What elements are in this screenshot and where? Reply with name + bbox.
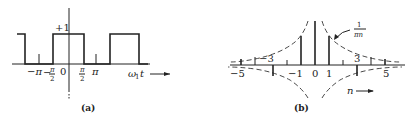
label-minus-half-pi-num: π (49, 66, 55, 74)
label-half-pi-den: 2 (80, 75, 84, 83)
label-n-minus1: −1 (288, 68, 303, 79)
envelope-label-num: 1 (357, 21, 361, 29)
envelope-lower-right (322, 67, 402, 98)
caption-a: (a) (81, 103, 95, 113)
label-n1: 1 (326, 68, 332, 79)
axis-label-n: n (347, 85, 353, 96)
axis-label-subscript: 1 (135, 73, 139, 81)
label-n0: 0 (312, 68, 318, 79)
label-minus-pi: −π (27, 66, 42, 77)
label-pi: π (91, 66, 99, 77)
panel-a-square-wave: +1 −π − π 2 0 π 2 π ω 1 t (a) (12, 8, 170, 113)
caption-b: (b) (294, 103, 309, 113)
label-minus-half-pi-den: 2 (50, 75, 54, 83)
figure: +1 −π − π 2 0 π 2 π ω 1 t (a) (0, 0, 418, 124)
axis-label-t: t (140, 68, 145, 79)
label-n5: 5 (383, 68, 389, 79)
envelope-label-den: πn (353, 31, 364, 39)
label-half-pi-num: π (79, 66, 85, 74)
label-n-minus3: −3 (259, 53, 274, 64)
square-wave-signal (17, 34, 148, 64)
label-zero: 0 (60, 66, 66, 77)
panel-b-line-spectrum: −5 −3 −1 0 1 3 5 1 πn n (b) (228, 21, 405, 113)
arrow-right-icon (164, 72, 170, 76)
label-n3: 3 (354, 53, 360, 64)
arrow-right-icon (368, 89, 374, 93)
label-n-minus5: −5 (230, 68, 245, 79)
pointer-arrow-icon (334, 34, 339, 40)
amplitude-label: +1 (55, 22, 70, 33)
